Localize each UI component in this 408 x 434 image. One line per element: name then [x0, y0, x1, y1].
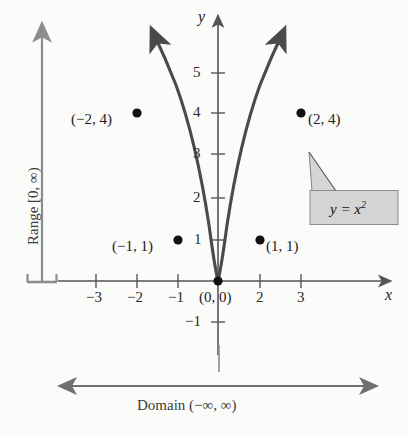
equation-callout-lead: y = x	[330, 201, 361, 217]
equation-callout-exponent: 2	[361, 199, 366, 210]
range-label: Range [0, ∞)	[25, 167, 42, 245]
x-tick-label-2: 2	[256, 290, 264, 305]
data-point	[213, 276, 222, 285]
equation-callout-label: y = x2	[330, 199, 366, 218]
y-tick-label-5: 5	[193, 65, 201, 80]
y-tick-label-2: 2	[193, 190, 201, 205]
domain-label: Domain (−∞, ∞)	[137, 397, 236, 414]
x-axis	[58, 274, 390, 288]
point-label-neg2-4: (−2, 4)	[71, 112, 112, 127]
data-point	[296, 108, 305, 117]
x-tick-label-neg3: −3	[86, 290, 102, 305]
parabola-figure: 5 4 3 2 1 −1 −3 −2 −1 2 3 y x (−2, 4) (−…	[0, 0, 408, 434]
point-label-2-4: (2, 4)	[308, 112, 341, 127]
x-tick-label-neg2: −2	[127, 290, 143, 305]
y-tick-label-neg1: −1	[185, 314, 201, 329]
x-axis-name: x	[385, 287, 392, 303]
point-label-1-1: (1, 1)	[266, 239, 299, 254]
x-tick-label-3: 3	[297, 290, 305, 305]
y-tick-label-1: 1	[194, 232, 202, 247]
data-point	[173, 235, 182, 244]
data-point	[255, 235, 264, 244]
x-tick-label-neg1: −1	[168, 290, 184, 305]
y-tick-label-4: 4	[193, 105, 201, 120]
point-label-neg1-1: (−1, 1)	[112, 239, 153, 254]
data-points	[132, 108, 305, 285]
point-label-0-0: (0, 0)	[199, 290, 232, 305]
y-axis-name: y	[198, 9, 205, 25]
data-point	[132, 108, 141, 117]
y-tick-label-3: 3	[193, 146, 201, 161]
